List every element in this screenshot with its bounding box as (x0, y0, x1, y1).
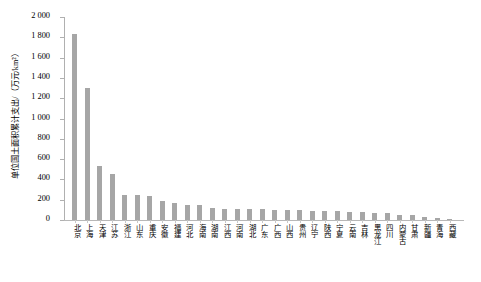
x-tick-label: 重庆 (144, 223, 155, 237)
bar (385, 213, 390, 220)
y-tick-mark (60, 159, 64, 160)
bar (197, 205, 202, 220)
y-tick-label: 1 400 (8, 73, 50, 81)
x-tick-label: 福建 (169, 223, 180, 237)
y-tick-mark (60, 119, 64, 120)
x-tick-label: 河北 (182, 223, 193, 237)
bar-series (64, 17, 464, 220)
x-tick-label: 云南 (344, 223, 355, 237)
x-tick-label: 河南 (232, 223, 243, 237)
x-tick-label: 广西 (269, 223, 280, 237)
y-tick-mark (60, 98, 64, 99)
bar (222, 209, 227, 220)
y-tick-label: 1 800 (8, 32, 50, 40)
x-tick-label: 浙江 (119, 223, 130, 237)
x-tick-label: 广东 (257, 223, 268, 237)
x-tick-mark (237, 220, 238, 223)
x-tick-mark (125, 220, 126, 223)
y-tick-label: 800 (8, 134, 50, 142)
bar (347, 212, 352, 220)
bar (160, 201, 165, 220)
bar (310, 211, 315, 220)
x-tick-label: 江西 (219, 223, 230, 237)
x-tick-label: 湖南 (207, 223, 218, 237)
y-tick-label: 1 600 (8, 53, 50, 61)
x-tick-label: 安徽 (157, 223, 168, 237)
x-tick-label: 宁夏 (332, 223, 343, 237)
x-tick-label: 吉林 (357, 223, 368, 237)
x-tick-label: 西藏 (444, 223, 455, 237)
y-tick-mark (60, 78, 64, 79)
y-tick-mark (60, 220, 64, 221)
x-tick-mark (137, 220, 138, 223)
y-axis-tick-labels: 2 0001 8001 6001 4001 2001 0008006004002… (0, 0, 64, 240)
x-tick-label: 青海 (432, 223, 443, 237)
x-tick-mark (362, 220, 363, 223)
bar (260, 209, 265, 220)
bar (72, 34, 77, 220)
x-tick-mark (387, 220, 388, 223)
bar (360, 212, 365, 220)
x-tick-mark (450, 220, 451, 223)
bar (147, 196, 152, 220)
y-tick-label: 600 (8, 154, 50, 162)
bar (322, 211, 327, 220)
y-tick-label: 2 000 (8, 12, 50, 20)
bar (272, 210, 277, 220)
x-tick-mark (75, 220, 76, 223)
y-tick-mark (60, 37, 64, 38)
y-tick-label: 200 (8, 195, 50, 203)
x-tick-label: 贵州 (294, 223, 305, 237)
bar (172, 203, 177, 220)
x-tick-mark (287, 220, 288, 223)
x-tick-label: 山东 (132, 223, 143, 237)
bar (247, 209, 252, 220)
x-tick-mark (312, 220, 313, 223)
x-tick-mark (250, 220, 251, 223)
x-tick-mark (337, 220, 338, 223)
x-tick-label: 辽宁 (307, 223, 318, 237)
x-tick-mark (437, 220, 438, 223)
x-tick-label: 甘肃 (407, 223, 418, 237)
bar (97, 166, 102, 220)
bar (235, 209, 240, 220)
bar (285, 210, 290, 220)
bar (372, 213, 377, 220)
x-tick-label: 江苏 (107, 223, 118, 237)
bar (185, 205, 190, 220)
x-tick-mark (212, 220, 213, 223)
bar (335, 211, 340, 220)
x-tick-mark (325, 220, 326, 223)
x-tick-mark (412, 220, 413, 223)
x-tick-mark (262, 220, 263, 223)
bar (85, 88, 90, 220)
y-tick-label: 1 200 (8, 93, 50, 101)
y-tick-label: 400 (8, 174, 50, 182)
x-tick-mark (87, 220, 88, 223)
x-tick-mark (187, 220, 188, 223)
x-tick-label: 湖北 (244, 223, 255, 237)
bar (135, 195, 140, 220)
x-tick-label: 黑龙江 (369, 223, 380, 244)
x-tick-label: 四川 (382, 223, 393, 237)
x-tick-mark (175, 220, 176, 223)
y-tick-label: 1 000 (8, 114, 50, 122)
x-tick-label: 新疆 (419, 223, 430, 237)
x-tick-mark (300, 220, 301, 223)
y-tick-mark (60, 17, 64, 18)
y-tick-mark (60, 139, 64, 140)
y-tick-mark (60, 179, 64, 180)
x-tick-label: 内蒙古 (394, 223, 405, 244)
x-tick-mark (375, 220, 376, 223)
bar (210, 208, 215, 220)
x-tick-label: 上海 (82, 223, 93, 237)
x-tick-mark (150, 220, 151, 223)
x-tick-mark (350, 220, 351, 223)
x-tick-mark (425, 220, 426, 223)
y-tick-mark (60, 58, 64, 59)
x-tick-label: 天津 (94, 223, 105, 237)
x-tick-mark (275, 220, 276, 223)
y-tick-label: 0 (8, 215, 50, 223)
bar (110, 174, 115, 220)
x-tick-mark (112, 220, 113, 223)
